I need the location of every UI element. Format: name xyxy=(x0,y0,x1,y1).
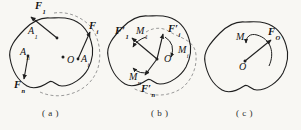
label-O-c: O xyxy=(239,62,246,72)
mechanics-diagram: F1 A1 Fi Ai An Fn O ( a ) F′1 M1 F′i Mi … xyxy=(0,0,301,130)
caption-b: ( b ) xyxy=(151,109,169,118)
point-O-dot-b xyxy=(156,58,159,61)
label-Fi: Fi xyxy=(89,21,98,32)
label-Ai: Ai xyxy=(81,54,89,64)
force-FO-vector xyxy=(245,40,271,61)
caption-a: ( a ) xyxy=(42,109,59,118)
point-Ai-dot xyxy=(77,58,80,61)
caption-c: ( c ) xyxy=(236,109,253,118)
label-Mi: Mi xyxy=(178,45,188,55)
label-M: M xyxy=(236,32,244,42)
label-Mn: Mn xyxy=(129,72,141,82)
force-F1p-vector xyxy=(132,38,157,59)
label-O-a: O xyxy=(67,55,74,65)
label-Fn-prime: F′n xyxy=(141,84,155,95)
force-Fip-vector xyxy=(157,34,163,59)
point-O-dot-a xyxy=(62,56,65,59)
label-O-b: O xyxy=(164,54,171,64)
label-Fi-prime: F′i xyxy=(168,24,180,35)
label-Fn: Fn xyxy=(14,80,25,91)
label-M1: M1 xyxy=(136,26,148,36)
point-A1-dot xyxy=(56,37,59,40)
label-F1: F1 xyxy=(35,1,45,12)
label-An: An xyxy=(20,47,29,57)
label-A1: A1 xyxy=(28,26,37,36)
label-F1-prime: F′1 xyxy=(115,26,128,37)
label-FO: FO xyxy=(268,27,280,38)
